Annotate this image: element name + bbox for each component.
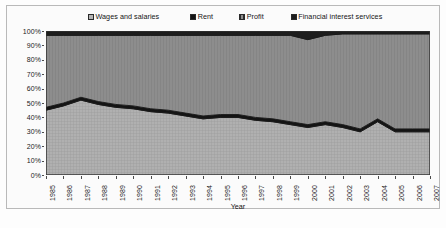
area-series-group (46, 31, 430, 175)
x-axis-tick-label: 1993 (189, 185, 196, 201)
y-axis-tick-mark (42, 74, 45, 75)
y-axis-tick-mark (42, 89, 45, 90)
y-axis-tick-mark (42, 117, 45, 118)
x-axis-tick-label: 1997 (258, 185, 265, 201)
y-axis-tick-label: 70% (1, 71, 41, 78)
x-axis-tick-label: 1998 (276, 185, 283, 201)
profit-swatch-icon (239, 14, 245, 20)
x-axis-tick-label: 1990 (136, 185, 143, 201)
x-axis-tick-label: 1994 (206, 185, 213, 201)
x-axis-tick-label: 1989 (119, 185, 126, 201)
x-axis-tick-mark (360, 176, 361, 179)
x-axis-tick-label: 2003 (363, 185, 370, 201)
x-axis-tick-mark (116, 176, 117, 179)
legend-item-profit[interactable]: Profit (239, 12, 264, 21)
y-axis-tick-label: 50% (1, 100, 41, 107)
y-axis-tick-label: 100% (1, 28, 41, 35)
chart-legend: Wages and salaries Rent Profit Financial… (46, 9, 376, 24)
legend-item-wages-and-salaries[interactable]: Wages and salaries (88, 12, 159, 21)
x-axis-tick-mark (430, 176, 431, 179)
x-axis-tick-mark (203, 176, 204, 179)
x-axis-tick-label: 1986 (66, 185, 73, 201)
y-axis-tick-mark (42, 146, 45, 147)
x-axis-tick-label: 1996 (241, 185, 248, 201)
wages-swatch-icon (88, 14, 94, 20)
stacked-area-plot (46, 31, 430, 175)
y-axis-tick-label: 10% (1, 157, 41, 164)
x-axis-tick-mark (168, 176, 169, 179)
x-axis-tick-label: 2007 (433, 185, 440, 201)
y-axis-tick-mark (42, 45, 45, 46)
y-axis-tick-label: 80% (1, 56, 41, 63)
y-axis-tick-label: 0% (1, 172, 41, 179)
x-axis-tick-mark (133, 176, 134, 179)
x-axis-tick-mark (221, 176, 222, 179)
plot-area (46, 31, 430, 175)
y-axis-tick-label: 20% (1, 143, 41, 150)
x-axis-tick-mark (325, 176, 326, 179)
legend-item-rent[interactable]: Rent (190, 12, 213, 21)
y-axis-tick-label: 40% (1, 114, 41, 121)
y-axis-tick-label: 90% (1, 42, 41, 49)
x-axis-tick-label: 2004 (381, 185, 388, 201)
x-axis-tick-mark (395, 176, 396, 179)
y-axis-tick-mark (42, 132, 45, 133)
x-axis-title: Year (46, 203, 430, 211)
x-axis-tick-mark (413, 176, 414, 179)
legend-label: Rent (198, 12, 213, 21)
x-axis-tick-label: 1992 (171, 185, 178, 201)
x-axis-tick-label: 1985 (49, 185, 56, 201)
x-axis-tick-mark (63, 176, 64, 179)
figure-caption (30, 219, 330, 228)
x-axis-tick-mark (46, 176, 47, 179)
legend-label: Wages and salaries (96, 12, 160, 21)
x-axis-tick-label: 1995 (224, 185, 231, 201)
y-axis-tick-mark (42, 161, 45, 162)
y-axis: 100%90%80%70%60%50%40%30%20%10%0% (0, 31, 44, 175)
legend-label: Financial interest services (298, 12, 382, 21)
x-axis-tick-label: 2005 (398, 185, 405, 201)
x-axis-tick-label: 2001 (328, 185, 335, 201)
legend-item-financial-interest-services[interactable]: Financial interest services (291, 12, 383, 21)
x-axis-tick-label: 1999 (293, 185, 300, 201)
y-axis-tick-mark (42, 175, 45, 176)
x-axis-tick-mark (98, 176, 99, 179)
x-axis-tick-mark (151, 176, 152, 179)
x-axis-tick-label: 1991 (154, 185, 161, 201)
x-axis-tick-label: 2002 (346, 185, 353, 201)
x-axis-tick-mark (343, 176, 344, 179)
rent-swatch-icon (190, 14, 196, 20)
x-axis-tick-mark (186, 176, 187, 179)
x-axis-tick-label: 1987 (84, 185, 91, 201)
x-axis-tick-label: 2006 (416, 185, 423, 201)
x-axis-tick-mark (81, 176, 82, 179)
x-axis-tick-label: 1988 (101, 185, 108, 201)
x-axis-tick-label: 2000 (311, 185, 318, 201)
financial-interest-services-swatch-icon (291, 14, 297, 20)
x-axis-tick-mark (308, 176, 309, 179)
y-axis-tick-mark (42, 60, 45, 61)
x-axis-tick-mark (255, 176, 256, 179)
legend-label: Profit (247, 12, 264, 21)
x-axis-tick-mark (238, 176, 239, 179)
y-axis-tick-label: 30% (1, 128, 41, 135)
y-axis-tick-mark (42, 31, 45, 32)
y-axis-tick-mark (42, 103, 45, 104)
y-axis-tick-label: 60% (1, 85, 41, 92)
x-axis-tick-mark (290, 176, 291, 179)
x-axis-tick-mark (378, 176, 379, 179)
x-axis-tick-mark (273, 176, 274, 179)
chart-figure: Wages and salaries Rent Profit Financial… (0, 0, 446, 228)
